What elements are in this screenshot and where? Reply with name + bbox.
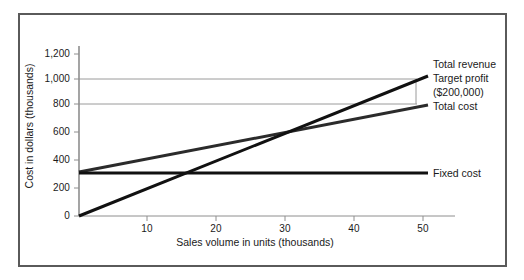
x-tick-label-40: 40: [339, 223, 369, 234]
chart-figure: 1,200 1,000 800 600 400 200 0 10 20 30 4…: [0, 0, 524, 280]
y-tick-label-0: 0: [32, 210, 70, 221]
y-tick-label-400: 400: [32, 154, 70, 165]
x-tick-label-30: 30: [270, 223, 300, 234]
x-tick-label-20: 20: [201, 223, 231, 234]
x-tick-label-10: 10: [132, 223, 162, 234]
y-tick-label-800: 800: [32, 98, 70, 109]
y-axis-title: Cost in dollars (thousands): [23, 51, 35, 201]
x-axis-title: Sales volume in units (thousands): [80, 236, 430, 248]
annotation-label-target-profit: Target profit: [433, 72, 488, 85]
y-tick-label-600: 600: [32, 126, 70, 137]
series-label-fixed-cost: Fixed cost: [433, 167, 481, 180]
annotation-label-target-profit-amount: ($200,000): [433, 86, 484, 99]
y-tick-label-200: 200: [32, 182, 70, 193]
series-line-total-revenue: [79, 76, 428, 216]
y-tick-label-1200: 1,200: [32, 48, 70, 59]
series-label-total-revenue: Total revenue: [433, 58, 496, 71]
y-tick-label-1000: 1,000: [32, 73, 70, 84]
x-tick-label-50: 50: [408, 223, 438, 234]
series-label-total-cost: Total cost: [433, 100, 477, 113]
series-line-total-cost: [79, 105, 428, 172]
